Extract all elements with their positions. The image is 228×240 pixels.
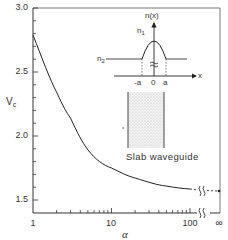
inset-x-label: x [198, 72, 202, 80]
x-tick-label: ∞ [204, 218, 228, 228]
x-tick-label: 1 [18, 219, 48, 228]
inset-n1-label: n1 [137, 27, 145, 36]
y-tick-label: 2.5 [6, 67, 28, 76]
x-axis-label: α [122, 229, 128, 240]
chart-canvas [0, 0, 228, 240]
inset-n2-label: n2 [97, 55, 105, 64]
infinity-point [218, 190, 221, 193]
asymptote-dash-right [207, 191, 218, 192]
plot-frame [33, 8, 220, 213]
inset-a-label: a [163, 79, 167, 87]
inset-zero-label: 0 [151, 79, 155, 87]
y-tick-label: 3.0 [6, 3, 28, 12]
y-axis-label: Vc [6, 97, 16, 108]
inset-index-profile [106, 23, 196, 76]
x-tick-label: 100 [175, 219, 205, 228]
vc-curve [33, 35, 190, 189]
axis-break-icon [199, 186, 205, 218]
slab-waveguide-illustration [122, 92, 164, 148]
y-tick-label: 1.5 [6, 195, 28, 204]
inset-caption: Slab waveguide [126, 152, 199, 162]
inset-nx-label: n(x) [145, 12, 159, 20]
inset-neg-a-label: -a [134, 79, 141, 87]
x-tick-label: 10 [96, 219, 126, 228]
asymptote-dash [190, 189, 198, 190]
x-axis-ticks [57, 208, 190, 213]
y-tick-label: 2.0 [6, 131, 28, 140]
